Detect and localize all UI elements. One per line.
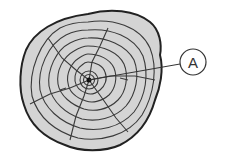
tree-cross-section-diagram: A [0,0,233,163]
label-a-text: A [188,54,198,71]
